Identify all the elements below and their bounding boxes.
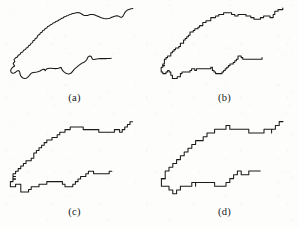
coastline-plot-b xyxy=(150,0,299,96)
south-coast-line-c xyxy=(10,171,111,192)
north-coast-line-d xyxy=(161,122,283,179)
panel-b: (b) xyxy=(150,0,299,114)
panel-a: (a) xyxy=(0,0,149,114)
south-coast-line-a xyxy=(11,56,112,78)
panel-d: (d) xyxy=(150,114,299,228)
south-coast-line-b xyxy=(161,56,262,78)
coastline-figure: (a) (b) (c) (d) xyxy=(0,0,299,228)
panel-caption-b: (b) xyxy=(150,92,299,103)
panel-c: (c) xyxy=(0,114,149,228)
coastline-plot-a xyxy=(0,0,149,96)
panel-caption-a: (a) xyxy=(0,92,149,103)
north-coast-line-a xyxy=(13,9,133,66)
coastline-plot-d xyxy=(150,114,299,210)
panel-caption-c: (c) xyxy=(0,206,149,217)
south-coast-line-d xyxy=(161,171,260,194)
north-coast-line-b xyxy=(163,8,283,66)
panel-caption-d: (d) xyxy=(150,206,299,217)
north-coast-line-c xyxy=(13,122,133,179)
coastline-plot-c xyxy=(0,114,149,210)
